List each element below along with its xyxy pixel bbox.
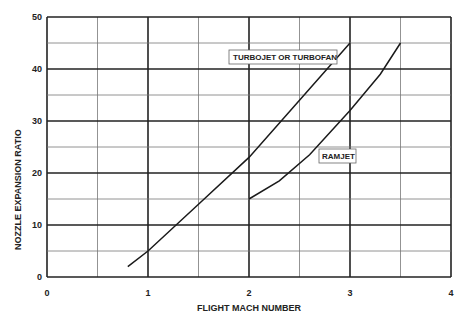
series-label-turbojet: TURBOJET OR TURBOFAN	[233, 53, 337, 62]
x-tick-label: 1	[145, 288, 150, 298]
y-tick-label: 30	[32, 116, 42, 126]
x-tick-label: 0	[44, 288, 49, 298]
y-tick-label: 40	[32, 64, 42, 74]
y-tick-label: 50	[32, 12, 42, 22]
nozzle-expansion-chart: 0123401020304050 TURBOJET OR TURBOFAN RA…	[0, 0, 465, 325]
y-tick-label: 0	[37, 272, 42, 282]
y-tick-label: 10	[32, 220, 42, 230]
y-axis-title: NOZZLE EXPANSION RATIO	[13, 129, 23, 250]
series-label-ramjet: RAMJET	[322, 152, 355, 161]
series-line-0	[128, 43, 350, 267]
y-tick-label: 20	[32, 168, 42, 178]
x-axis-title: FLIGHT MACH NUMBER	[197, 303, 301, 313]
x-tick-label: 4	[448, 288, 453, 298]
x-tick-label: 2	[246, 288, 251, 298]
x-tick-label: 3	[347, 288, 352, 298]
curves	[128, 43, 401, 267]
